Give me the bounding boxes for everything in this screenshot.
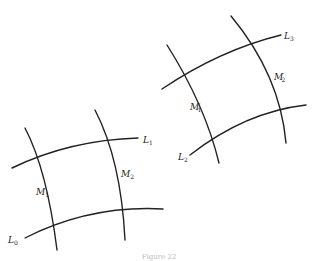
label-L2: L2 — [177, 152, 188, 163]
curve-L1 — [12, 138, 138, 168]
label-L0: L0 — [7, 235, 18, 246]
label-M1-prime: M′1 — [189, 101, 201, 113]
label-M2: M2 — [120, 169, 134, 180]
label-M2-prime: M′2 — [273, 71, 286, 83]
curve-L0 — [25, 209, 163, 238]
figure-caption: Figure 22 — [0, 253, 318, 261]
curve-L2 — [190, 105, 306, 155]
label-L1: L1 — [142, 135, 153, 146]
curve-L3 — [162, 35, 281, 89]
label-L3: L3 — [283, 31, 294, 42]
